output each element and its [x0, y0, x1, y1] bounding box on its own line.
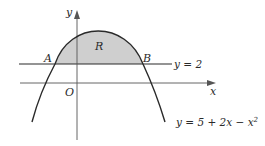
curve-equation-label: y = 5 + 2x − x2	[175, 116, 259, 128]
curve-equation-main: y = 5 + 2x − x	[175, 116, 254, 128]
curve-equation-exponent: 2	[253, 116, 259, 124]
parabola-diagram: y x O A B R y = 2 y = 5 + 2x − x2	[0, 0, 265, 146]
y-axis-arrow-icon	[74, 10, 80, 19]
point-a-label: A	[43, 52, 52, 65]
point-b-label: B	[142, 52, 151, 65]
y-axis-label: y	[65, 6, 73, 19]
line-equation-label: y = 2	[173, 58, 202, 70]
origin-label: O	[65, 86, 74, 99]
region-r-label: R	[94, 40, 103, 53]
x-axis-label: x	[210, 85, 217, 98]
